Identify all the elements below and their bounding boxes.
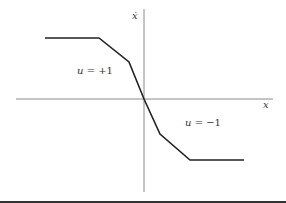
bottom-rule xyxy=(0,201,286,203)
equals-sign: = xyxy=(191,117,206,128)
control-value: +1 xyxy=(98,65,113,76)
region-label-minus: u = −1 xyxy=(185,117,221,128)
x-axis-label: x xyxy=(263,99,269,110)
y-axis-label: ẋ xyxy=(132,10,138,21)
equals-sign: = xyxy=(83,65,98,76)
control-value: −1 xyxy=(206,117,221,128)
phase-plane-diagram: ẋ x u = +1 u = −1 xyxy=(0,0,286,203)
phase-plane-svg: ẋ x u = +1 u = −1 xyxy=(0,0,286,203)
region-label-plus: u = +1 xyxy=(77,65,113,76)
